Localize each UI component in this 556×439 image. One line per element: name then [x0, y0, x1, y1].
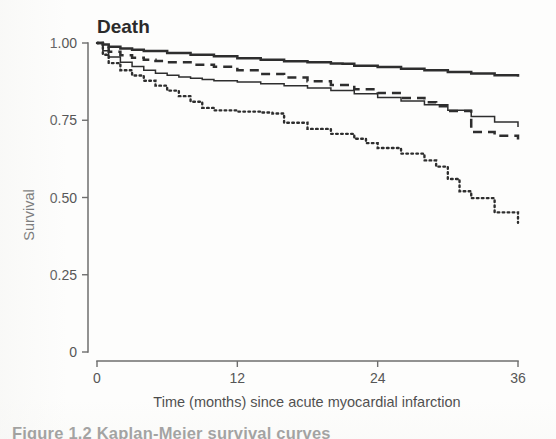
survival-curves: [97, 43, 518, 223]
curve-4-dotted: [97, 43, 518, 223]
y-axis-title: Survival: [21, 189, 37, 241]
survival-plot: Death 00.250.500.751.00 0122436 Survival…: [0, 0, 556, 420]
x-tick-label: 24: [370, 370, 386, 386]
y-tick-label: 0.50: [50, 190, 77, 206]
y-tick-label: 0.25: [50, 267, 77, 283]
y-tick-label: 0: [69, 344, 77, 360]
figure-caption: Figure 1.2 Kaplan-Meier survival curves: [12, 424, 552, 439]
y-tick-label: 1.00: [50, 35, 77, 51]
figure-container: Death 00.250.500.751.00 0122436 Survival…: [0, 0, 556, 439]
x-tick-label: 12: [230, 370, 246, 386]
y-axis-ticks: 00.250.500.751.00: [50, 35, 88, 360]
x-tick-label: 36: [510, 370, 526, 386]
x-axis-title: Time (months) since acute myocardial inf…: [153, 394, 460, 410]
y-tick-label: 0.75: [50, 112, 77, 128]
plot-title: Death: [97, 16, 150, 37]
x-tick-label: 0: [93, 370, 101, 386]
x-axis-ticks: 0122436: [93, 361, 526, 386]
